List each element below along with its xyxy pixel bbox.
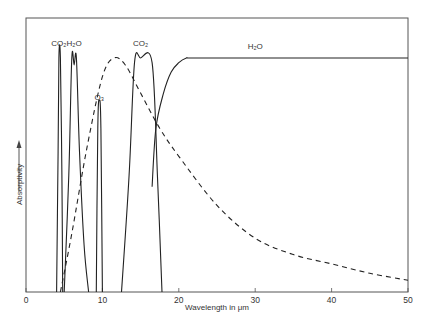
band-label: H₂O	[67, 39, 82, 48]
series-layer	[57, 45, 408, 292]
band-label: CO₂	[51, 39, 66, 48]
absorption-band	[122, 53, 163, 292]
absorption-band	[57, 45, 63, 292]
x-tick-label: 30	[250, 295, 260, 305]
absorption-band	[96, 100, 102, 292]
x-tick-label: 0	[24, 295, 29, 305]
x-axis-label: Wavelength in μm	[185, 303, 249, 312]
x-tick-label: 50	[403, 295, 413, 305]
y-axis-label-group: Absorptivity	[15, 140, 24, 205]
plot-frame	[26, 18, 408, 292]
x-tick-label: 40	[327, 295, 337, 305]
up-arrow-icon	[17, 140, 22, 148]
band-label: H₂O	[248, 42, 263, 51]
band-label: O₃	[95, 93, 104, 102]
band-annotations: CO₂H₂OO₃CO₂H₂O	[51, 39, 262, 102]
band-label: CO₂	[133, 39, 148, 48]
absorption-band	[152, 58, 408, 187]
absorptivity-chart: 01020304050 CO₂H₂OO₃CO₂H₂O Wavelength in…	[0, 0, 426, 323]
emission-curve	[60, 57, 408, 292]
y-axis-label: Absorptivity	[15, 164, 24, 205]
x-tick-label: 20	[174, 295, 184, 305]
x-tick-label: 10	[98, 295, 108, 305]
